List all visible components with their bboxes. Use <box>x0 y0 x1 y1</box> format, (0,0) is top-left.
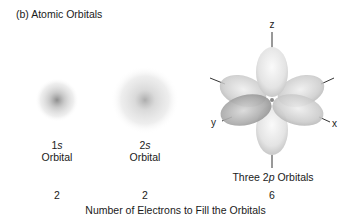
label-2s-word: Orbital <box>130 151 161 163</box>
label-2s-subshell: s <box>145 139 150 151</box>
orbital-1s <box>35 78 79 122</box>
label-2p-orbitals: Three 2p Orbitals <box>232 171 313 183</box>
label-1s-orbital: 1s Orbital <box>42 139 73 163</box>
label-2p-prefix: Three 2 <box>232 171 268 183</box>
electron-count-1s: 2 <box>54 189 60 201</box>
electron-count-2p: 6 <box>269 189 275 201</box>
footer-caption: Number of Electrons to Fill the Orbitals <box>0 204 351 216</box>
orbitals-illustration: z y x <box>0 0 351 222</box>
label-1s-subshell: s <box>57 139 62 151</box>
axis-label-y: y <box>211 117 216 128</box>
orbital-2s <box>111 66 179 134</box>
orbitals-2p: z y x <box>210 19 337 168</box>
axis-label-z: z <box>270 19 275 30</box>
electron-count-2s: 2 <box>142 189 148 201</box>
label-2s-orbital: 2s Orbital <box>130 139 161 163</box>
label-1s-word: Orbital <box>42 151 73 163</box>
label-2p-suffix: Orbitals <box>274 171 313 183</box>
axis-label-x: x <box>332 118 337 129</box>
